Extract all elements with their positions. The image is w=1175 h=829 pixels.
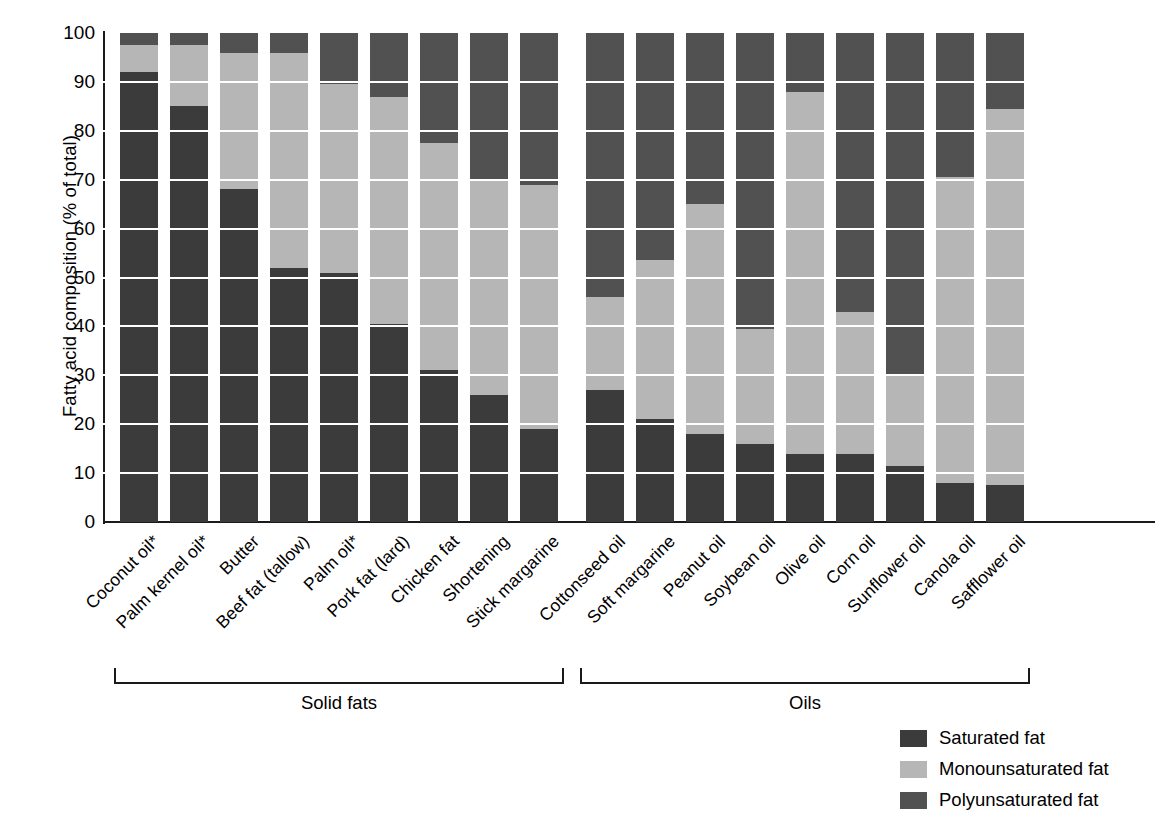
bar-palm-kernel-oil[interactable] bbox=[170, 33, 208, 522]
segment-polyunsaturated bbox=[686, 33, 724, 204]
bar-pork-fat-lard[interactable] bbox=[370, 33, 408, 522]
segment-polyunsaturated bbox=[370, 33, 408, 97]
segment-monounsaturated bbox=[686, 204, 724, 434]
segment-saturated bbox=[586, 390, 624, 522]
fatty-acid-composition-chart: Fatty acid composition (% of total) 0102… bbox=[0, 0, 1175, 829]
segment-polyunsaturated bbox=[736, 33, 774, 329]
bar-sunflower-oil[interactable] bbox=[886, 33, 924, 522]
segment-polyunsaturated bbox=[836, 33, 874, 312]
x-axis-category-labels: Coconut oil*Palm kernel oil*ButterBeef f… bbox=[103, 523, 1155, 663]
segment-monounsaturated bbox=[470, 180, 508, 395]
segment-polyunsaturated bbox=[420, 33, 458, 143]
legend-row[interactable]: Monounsaturated fat bbox=[900, 755, 1175, 783]
bar-corn-oil[interactable] bbox=[836, 33, 874, 522]
segment-polyunsaturated bbox=[986, 33, 1024, 109]
legend-swatch-icon bbox=[900, 792, 927, 809]
segment-monounsaturated bbox=[170, 45, 208, 106]
segment-polyunsaturated bbox=[320, 33, 358, 84]
chart-legend: Saturated fatMonounsaturated fatPolyunsa… bbox=[900, 724, 1175, 817]
segment-polyunsaturated bbox=[120, 33, 158, 45]
bar-soybean-oil[interactable] bbox=[736, 33, 774, 522]
bar-safflower-oil[interactable] bbox=[986, 33, 1024, 522]
bar-palm-oil[interactable] bbox=[320, 33, 358, 522]
segment-monounsaturated bbox=[836, 312, 874, 454]
segment-polyunsaturated bbox=[636, 33, 674, 260]
segment-monounsaturated bbox=[586, 297, 624, 390]
segment-saturated bbox=[936, 483, 974, 522]
legend-row[interactable]: Polyunsaturated fat bbox=[900, 786, 1175, 814]
segment-polyunsaturated bbox=[936, 33, 974, 177]
bar-olive-oil[interactable] bbox=[786, 33, 824, 522]
y-tick-label: 30 bbox=[53, 365, 95, 384]
segment-monounsaturated bbox=[520, 185, 558, 430]
segment-saturated bbox=[470, 395, 508, 522]
bar-peanut-oil[interactable] bbox=[686, 33, 724, 522]
bar-beef-fat-tallow[interactable] bbox=[270, 33, 308, 522]
x-label: Olive oil bbox=[770, 531, 830, 591]
segment-polyunsaturated bbox=[220, 33, 258, 53]
segment-saturated bbox=[220, 189, 258, 522]
y-tick-label: 90 bbox=[53, 72, 95, 91]
segment-saturated bbox=[736, 444, 774, 522]
bar-canola-oil[interactable] bbox=[936, 33, 974, 522]
bar-cottonseed-oil[interactable] bbox=[586, 33, 624, 522]
group-bracket bbox=[114, 668, 564, 684]
group-bracket bbox=[580, 668, 1030, 684]
group-label: Solid fats bbox=[114, 692, 564, 714]
segment-polyunsaturated bbox=[786, 33, 824, 92]
segment-monounsaturated bbox=[886, 375, 924, 465]
group-label: Oils bbox=[580, 692, 1030, 714]
y-tick-label: 100 bbox=[53, 23, 95, 42]
y-tick-label: 40 bbox=[53, 316, 95, 335]
segment-saturated bbox=[320, 273, 358, 522]
segment-saturated bbox=[520, 429, 558, 522]
segment-monounsaturated bbox=[420, 143, 458, 370]
segment-monounsaturated bbox=[320, 84, 358, 272]
segment-saturated bbox=[170, 106, 208, 522]
y-axis-tick-labels: 0102030405060708090100 bbox=[45, 33, 95, 522]
segment-monounsaturated bbox=[636, 260, 674, 419]
legend-label: Polyunsaturated fat bbox=[939, 789, 1098, 811]
segment-monounsaturated bbox=[270, 53, 308, 268]
legend-swatch-icon bbox=[900, 761, 927, 778]
segment-monounsaturated bbox=[986, 109, 1024, 486]
segment-saturated bbox=[636, 419, 674, 522]
bar-stick-margarine[interactable] bbox=[520, 33, 558, 522]
y-tick-label: 60 bbox=[53, 219, 95, 238]
legend-swatch-icon bbox=[900, 730, 927, 747]
segment-saturated bbox=[986, 485, 1024, 522]
segment-monounsaturated bbox=[370, 97, 408, 324]
bar-shortening[interactable] bbox=[470, 33, 508, 522]
segment-saturated bbox=[370, 324, 408, 522]
y-tick-label: 20 bbox=[53, 414, 95, 433]
legend-label: Monounsaturated fat bbox=[939, 758, 1109, 780]
segment-monounsaturated bbox=[220, 53, 258, 190]
legend-row[interactable]: Saturated fat bbox=[900, 724, 1175, 752]
segment-polyunsaturated bbox=[170, 33, 208, 45]
y-tick-label: 10 bbox=[53, 463, 95, 482]
plot-area bbox=[103, 33, 1155, 522]
bar-series-container bbox=[103, 33, 1155, 522]
segment-polyunsaturated bbox=[520, 33, 558, 185]
segment-saturated bbox=[786, 454, 824, 522]
segment-polyunsaturated bbox=[270, 33, 308, 53]
legend-label: Saturated fat bbox=[939, 727, 1045, 749]
segment-monounsaturated bbox=[786, 92, 824, 454]
y-tick-label: 0 bbox=[53, 512, 95, 531]
y-tick-label: 50 bbox=[53, 268, 95, 287]
y-tick-label: 80 bbox=[53, 121, 95, 140]
segment-monounsaturated bbox=[936, 177, 974, 483]
segment-saturated bbox=[836, 454, 874, 522]
segment-saturated bbox=[120, 72, 158, 522]
segment-saturated bbox=[886, 466, 924, 522]
segment-saturated bbox=[420, 370, 458, 522]
segment-monounsaturated bbox=[120, 45, 158, 72]
segment-monounsaturated bbox=[736, 329, 774, 444]
bar-coconut-oil[interactable] bbox=[120, 33, 158, 522]
segment-saturated bbox=[270, 268, 308, 522]
bar-soft-margarine[interactable] bbox=[636, 33, 674, 522]
y-tick-label: 70 bbox=[53, 170, 95, 189]
bar-butter[interactable] bbox=[220, 33, 258, 522]
bar-chicken-fat[interactable] bbox=[420, 33, 458, 522]
segment-saturated bbox=[686, 434, 724, 522]
